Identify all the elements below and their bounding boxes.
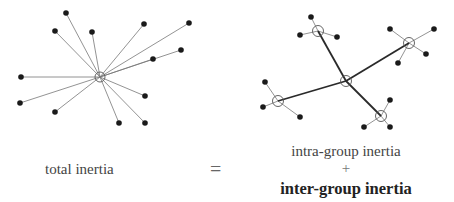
data-point xyxy=(431,26,437,32)
intra-group-inertia-label: intra-group inertia xyxy=(270,143,422,160)
data-point xyxy=(387,124,393,130)
data-point xyxy=(116,120,122,126)
data-point xyxy=(297,114,303,120)
data-point xyxy=(186,20,192,26)
data-point xyxy=(395,60,401,66)
data-point xyxy=(260,104,266,110)
equals-sign: = xyxy=(210,158,221,181)
intra-group-line xyxy=(390,29,409,43)
distance-line xyxy=(20,77,100,103)
data-point xyxy=(361,124,367,130)
data-point xyxy=(297,32,303,38)
data-point xyxy=(387,97,393,103)
inter-group-inertia-label: inter-group inertia xyxy=(270,179,422,199)
total-inertia-star xyxy=(17,10,192,126)
data-point xyxy=(142,93,148,99)
distance-line xyxy=(100,77,145,123)
inter-group-line xyxy=(346,81,381,116)
data-point xyxy=(52,109,58,115)
data-point xyxy=(17,100,23,106)
intra-group-line xyxy=(278,101,300,117)
data-point xyxy=(142,120,148,126)
intra-group-line xyxy=(364,116,381,127)
data-point xyxy=(308,14,314,20)
plus-sign: + xyxy=(270,160,422,177)
data-point xyxy=(387,26,393,32)
distance-line xyxy=(100,23,189,77)
intra-group-line xyxy=(409,43,426,54)
intra-group-line xyxy=(409,29,434,43)
data-point xyxy=(52,28,58,34)
total-inertia-label: total inertia xyxy=(45,161,114,178)
decomposed-inertia-groups xyxy=(260,14,437,130)
distance-line xyxy=(100,24,144,77)
data-point xyxy=(178,47,184,53)
data-point xyxy=(89,29,95,35)
inter-group-line xyxy=(278,81,346,101)
data-point xyxy=(18,74,24,80)
inertia-diagram xyxy=(0,0,454,150)
data-point xyxy=(423,51,429,57)
distance-line xyxy=(66,13,100,77)
data-point xyxy=(262,79,268,85)
intra-group-line xyxy=(265,82,278,101)
data-point xyxy=(150,56,156,62)
distance-line xyxy=(55,77,100,112)
data-point xyxy=(63,10,69,16)
data-point xyxy=(334,34,340,40)
data-point xyxy=(141,21,147,27)
inter-group-line xyxy=(318,31,346,81)
